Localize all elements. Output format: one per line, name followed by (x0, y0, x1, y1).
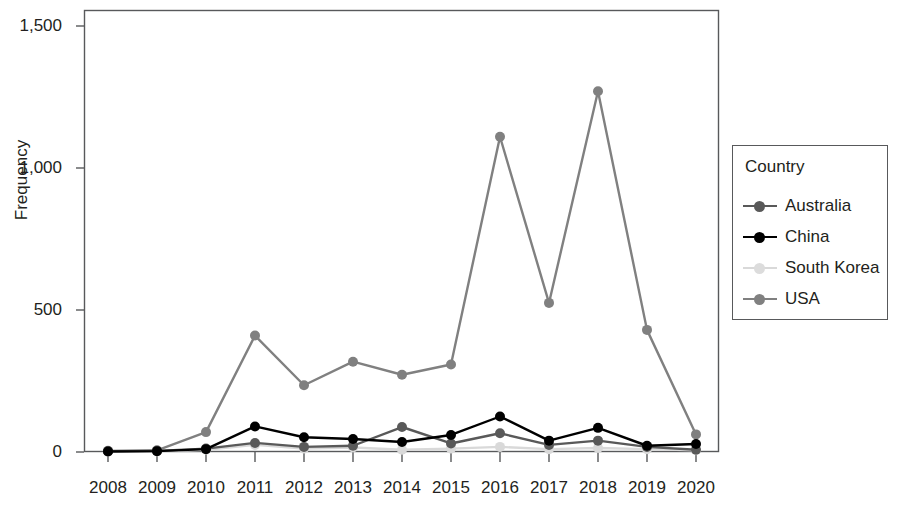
data-point (348, 357, 358, 367)
data-point (250, 421, 260, 431)
legend-item-south-korea[interactable]: South Korea (743, 253, 880, 283)
data-point (593, 423, 603, 433)
legend-label-usa: USA (785, 289, 820, 309)
data-point (152, 446, 162, 456)
legend-swatch-australia (743, 199, 777, 213)
y-axis-ticks (76, 26, 84, 452)
data-point (250, 438, 260, 448)
series-layer (103, 86, 701, 456)
legend-item-china[interactable]: China (743, 222, 829, 252)
data-point (250, 331, 260, 341)
data-point (544, 298, 554, 308)
data-point (544, 436, 554, 446)
series-usa (103, 86, 701, 456)
data-point (299, 432, 309, 442)
data-point (397, 370, 407, 380)
data-point (299, 380, 309, 390)
data-point (593, 436, 603, 446)
data-point (495, 428, 505, 438)
data-point (446, 438, 456, 448)
data-point (495, 412, 505, 422)
data-point (201, 444, 211, 454)
data-point (691, 439, 701, 449)
data-point (495, 132, 505, 142)
legend-swatch-usa (743, 292, 777, 306)
data-point (691, 429, 701, 439)
data-point (299, 442, 309, 452)
data-point (593, 86, 603, 96)
legend-item-usa[interactable]: USA (743, 284, 820, 314)
data-point (446, 360, 456, 370)
legend-swatch-south-korea (743, 261, 777, 275)
data-point (397, 422, 407, 432)
data-point (348, 434, 358, 444)
data-point (446, 430, 456, 440)
plot-frame (85, 11, 719, 452)
legend: Country Australia China South Korea (732, 145, 888, 320)
legend-item-australia[interactable]: Australia (743, 191, 851, 221)
data-point (642, 325, 652, 335)
data-point (642, 441, 652, 451)
data-point (495, 442, 505, 452)
legend-title: Country (745, 157, 805, 177)
data-point (103, 446, 113, 456)
data-point (201, 427, 211, 437)
series-line (108, 91, 696, 451)
legend-label-china: China (785, 227, 829, 247)
legend-label-australia: Australia (785, 196, 851, 216)
legend-label-south-korea: South Korea (785, 258, 880, 278)
line-chart-figure: Frequency 1,500 1,000 500 0 2008 2009 20… (0, 0, 899, 506)
data-point (397, 437, 407, 447)
legend-swatch-china (743, 230, 777, 244)
